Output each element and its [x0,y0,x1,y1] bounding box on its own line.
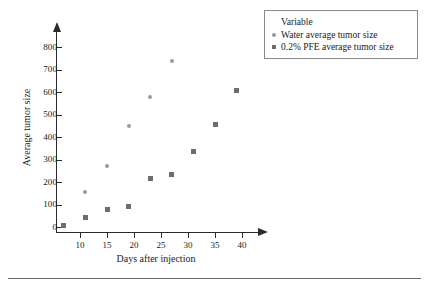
x-axis-title: Days after injection [56,253,256,264]
x-tick-mark [80,233,81,238]
x-tick-mark [161,233,162,238]
y-tick-mark [57,137,62,138]
data-point [191,149,196,154]
x-axis-arrow-icon [258,228,268,236]
x-tick-label: 30 [176,240,200,250]
x-tick-mark [188,233,189,238]
circle-marker-icon [272,33,281,37]
y-tick-label: 400 [29,133,57,142]
data-point [105,164,109,168]
data-point [83,190,87,194]
x-tick-mark [107,233,108,238]
x-tick-mark [215,233,216,238]
data-point [83,215,88,220]
square-marker-icon [272,45,281,49]
y-tick-label: 300 [29,155,57,164]
data-point [169,172,174,177]
bottom-divider [8,278,421,279]
data-point [148,176,153,181]
scatterplot-figure: 0100200300400500600700800 10152025303540… [0,0,429,288]
y-tick-mark [57,160,62,161]
legend: Variable Water average tumor size0.2% PF… [264,10,418,59]
data-point [61,223,66,228]
legend-entry[interactable]: 0.2% PFE average tumor size [272,41,411,53]
x-tick-label: 35 [203,240,227,250]
x-tick-label: 25 [149,240,173,250]
y-tick-mark [57,205,62,206]
x-tick-mark [134,233,135,238]
y-tick-label: 600 [29,88,57,97]
data-point [126,204,131,209]
legend-entry-label: Water average tumor size [281,29,378,41]
y-axis-title: Average tumor size [21,58,32,198]
legend-title: Variable [272,16,411,28]
y-tick-mark [57,92,62,93]
y-tick-mark [57,115,62,116]
data-point [105,207,110,212]
legend-entry[interactable]: Water average tumor size [272,29,411,41]
x-tick-label: 40 [230,240,254,250]
x-tick-label: 10 [68,240,92,250]
y-tick-mark [57,70,62,71]
data-point [213,122,218,127]
y-tick-mark [57,182,62,183]
y-tick-label: 0 [29,223,57,232]
y-tick-label: 500 [29,110,57,119]
y-tick-label: 100 [29,200,57,209]
y-tick-mark [57,47,62,48]
legend-entry-label: 0.2% PFE average tumor size [281,41,394,53]
data-point [127,124,131,128]
x-axis-line [56,232,258,233]
x-tick-mark [242,233,243,238]
x-tick-label: 20 [122,240,146,250]
y-tick-label: 200 [29,178,57,187]
y-axis-arrow-icon [53,22,61,32]
data-point [170,59,174,63]
y-tick-label: 700 [29,65,57,74]
legend-entries: Water average tumor size0.2% PFE average… [272,29,411,53]
data-point [148,95,152,99]
y-tick-label: 800 [29,43,57,52]
data-point [234,88,239,93]
x-tick-label: 15 [95,240,119,250]
